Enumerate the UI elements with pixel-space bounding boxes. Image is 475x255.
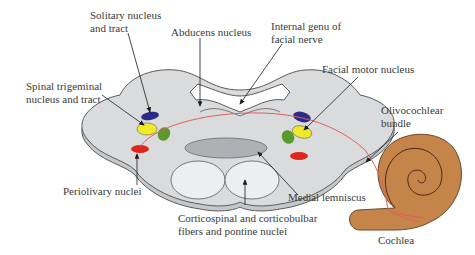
trigeminal-nucleus-left (137, 123, 157, 135)
label-solitary: Solitary nucleus and tract (90, 9, 161, 34)
label-medial-lemniscus: Medial lemniscus (288, 191, 366, 204)
label-corticospinal: Corticospinal and corticobulbar fibers a… (178, 212, 317, 237)
label-facial-motor: Facial motor nucleus (322, 63, 414, 76)
label-olivocochlear: Olivocochlear bundle (381, 104, 443, 129)
label-abducens: Abducens nucleus (171, 26, 251, 39)
corticospinal-right (225, 161, 279, 199)
label-cochlea: Cochlea (378, 234, 414, 247)
label-internal-genu: Internal genu of facial nerve (271, 20, 341, 45)
periolivary-right (290, 152, 308, 160)
label-periolivary: Periolivary nuclei (63, 185, 142, 198)
medial-lemniscus (185, 138, 267, 158)
label-spinal-trigeminal: Spinal trigeminal nucleus and tract (26, 80, 102, 105)
corticospinal-left (171, 161, 225, 199)
